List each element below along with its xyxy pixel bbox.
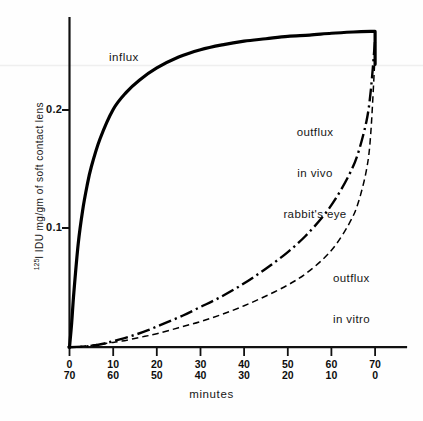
annotation-outflux-in-vivo-line2: in vivo	[256, 167, 374, 181]
annotation-outflux-in-vitro: outflux in vitro	[333, 245, 419, 354]
x-tick-label-group-2: 20 50	[140, 359, 174, 380]
x-tick-bottom-3: 40	[184, 370, 218, 381]
x-tick-top-0: 0	[53, 359, 87, 370]
annotation-influx: influx	[109, 51, 139, 65]
x-tick-label-group-1: 10 60	[96, 359, 130, 380]
x-tick-label-group-7: 70 0	[358, 359, 392, 380]
x-tick-bottom-4: 30	[227, 370, 261, 381]
annotation-outflux-in-vivo: outflux in vivo rabbit's eye	[256, 99, 374, 248]
x-tick-label-group-4: 40 30	[227, 359, 261, 380]
figure-caption-cropped	[28, 409, 408, 420]
x-tick-label-group-6: 60 10	[314, 359, 348, 380]
x-tick-bottom-1: 60	[96, 370, 130, 381]
y-axis-title-text: I IDU mg/gm of soft contact lens	[34, 102, 45, 259]
x-tick-marks	[70, 347, 376, 356]
x-tick-top-1: 10	[96, 359, 130, 370]
annotation-outflux-in-vivo-line3: rabbit's eye	[256, 208, 374, 222]
x-tick-bottom-6: 10	[314, 370, 348, 381]
x-tick-bottom-0: 70	[53, 370, 87, 381]
y-axis-title-superscript: 125	[33, 259, 40, 271]
x-tick-top-5: 50	[271, 359, 305, 370]
annotation-outflux-in-vitro-line1: outflux	[333, 272, 419, 286]
x-tick-label-group-0: 0 70	[53, 359, 87, 380]
x-tick-label-group-3: 30 40	[184, 359, 218, 380]
x-tick-bottom-7: 0	[358, 370, 392, 381]
annotation-outflux-in-vivo-line1: outflux	[256, 126, 374, 140]
x-axis-title: minutes	[0, 388, 423, 402]
x-tick-top-6: 60	[314, 359, 348, 370]
x-tick-top-4: 40	[227, 359, 261, 370]
x-tick-bottom-2: 50	[140, 370, 174, 381]
x-tick-label-group-5: 50 20	[271, 359, 305, 380]
x-tick-top-7: 70	[358, 359, 392, 370]
annotation-outflux-in-vitro-line2: in vitro	[333, 313, 419, 327]
x-tick-top-3: 30	[184, 359, 218, 370]
figure-container: 0.2 0.1 0 70 10 60 20 50 30 40 40 30 50 …	[0, 0, 423, 421]
y-axis-title: 125I IDU mg/gm of soft contact lens	[33, 71, 45, 301]
x-tick-top-2: 20	[140, 359, 174, 370]
x-tick-bottom-5: 20	[271, 370, 305, 381]
